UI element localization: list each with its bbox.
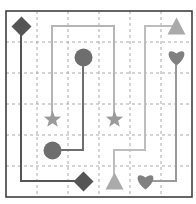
puzzle-board[interactable] <box>0 0 196 204</box>
star-icon[interactable] <box>44 111 61 127</box>
triangle-path <box>114 26 176 181</box>
circle-icon[interactable] <box>44 142 62 160</box>
diamond-icon[interactable] <box>74 172 94 192</box>
diamond-icon[interactable] <box>12 17 32 37</box>
heart-icon[interactable] <box>169 51 185 65</box>
star-icon[interactable] <box>106 111 123 127</box>
grid-lines <box>6 11 192 197</box>
heart-icon[interactable] <box>138 175 154 189</box>
triangle-icon[interactable] <box>106 173 124 190</box>
circle-icon[interactable] <box>75 49 93 67</box>
